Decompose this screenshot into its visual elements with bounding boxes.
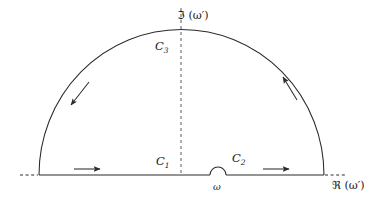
contour-label-c1-subscript: 1 [165,161,170,170]
arrow-arc-left-down-icon [71,82,89,105]
pole-label-omega: ω [213,182,221,192]
imaginary-axis-label: ℑ (ω′) [177,10,209,21]
contour-label-c3-subscript: 3 [164,46,169,55]
real-axis-label: ℜ (ω′) [332,180,365,191]
contour-integral-figure: ℑ (ω′) ℜ (ω′) C3 C1 C2 ω [0,0,371,204]
contour-label-c3-letter: C [155,39,164,53]
contour-label-c2-subscript: 2 [241,158,246,167]
contour-label-c3: C3 [155,41,169,55]
contour-label-c1-letter: C [156,154,165,168]
contour-label-c1: C1 [156,156,170,170]
contour-label-c2: C2 [232,153,246,167]
pole-indentation-semicircle [210,167,226,175]
contour-label-c2-letter: C [232,151,241,165]
contour-diagram-canvas [0,0,371,204]
